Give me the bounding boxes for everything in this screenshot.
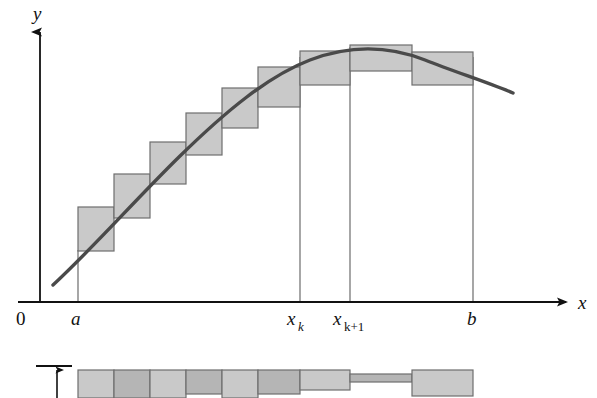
strip-cell [350,374,412,382]
origin-label: 0 [16,308,26,329]
strip-cell [222,370,258,398]
tick-label-xk-group: x k [286,308,304,334]
strip-cell [412,370,473,396]
strip-cell [186,370,222,394]
strip-cell [150,370,186,398]
riemann-sum-figure: y x 0 a x k x k+1 b [0,0,597,398]
tick-label-xk: x [286,308,296,329]
y-axis-label: y [31,3,42,24]
bottom-partition-strip [36,366,473,398]
tick-label-a: a [71,308,81,329]
tick-label-xk-plus-1: x [332,308,342,329]
strip-cell [78,370,114,398]
riemann-rect [150,142,186,184]
tick-label-xk-plus-1-group: x k+1 [332,308,364,334]
x-axis-label: x [577,292,587,313]
strip-cell [258,370,300,394]
figure-canvas: y x 0 a x k x k+1 b [0,0,597,398]
strip-cell [114,370,150,398]
tick-label-b: b [467,308,477,329]
strip-cell [300,370,350,390]
riemann-rect [114,174,150,218]
riemann-rect [258,67,300,107]
tick-sub-xk-plus-1: k+1 [344,319,364,334]
tick-sub-xk: k [298,319,304,334]
